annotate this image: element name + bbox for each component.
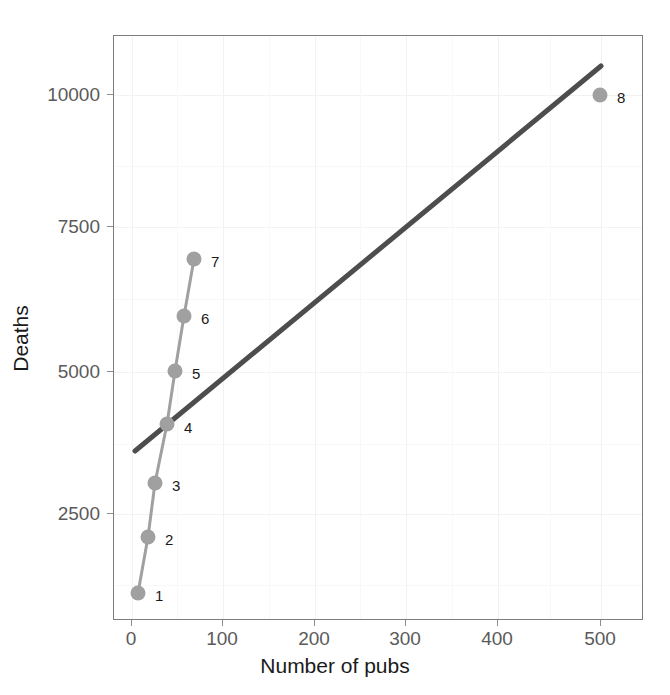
y-tick-label-5000: 5000	[58, 362, 100, 381]
x-tick-label-400: 400	[481, 629, 513, 648]
point-label-6: 6	[201, 311, 209, 326]
x-axis-title: Number of pubs	[0, 655, 670, 676]
y-tick-label-10000: 10000	[47, 85, 100, 104]
data-point-8[interactable]	[593, 88, 608, 103]
x-tick-mark-100	[222, 620, 223, 626]
data-point-5[interactable]	[168, 364, 183, 379]
x-tick-mark-200	[314, 620, 315, 626]
y-tick-mark-2500	[107, 513, 113, 514]
data-point-3[interactable]	[148, 476, 163, 491]
y-tick-mark-7500	[107, 226, 113, 227]
point-label-3: 3	[172, 478, 180, 493]
x-tick-mark-300	[405, 620, 406, 626]
data-point-6[interactable]	[177, 309, 192, 324]
data-point-2[interactable]	[141, 530, 156, 545]
regression-line	[135, 66, 601, 451]
point-label-5: 5	[192, 366, 200, 381]
data-point-7[interactable]	[187, 252, 202, 267]
point-label-4: 4	[184, 420, 192, 435]
point-label-7: 7	[211, 254, 219, 269]
point-label-2: 2	[165, 532, 173, 547]
x-tick-mark-400	[497, 620, 498, 626]
y-axis-title: Deaths	[10, 289, 31, 389]
x-tick-label-200: 200	[298, 629, 330, 648]
x-tick-label-0: 0	[126, 629, 137, 648]
point-label-1: 1	[155, 588, 163, 603]
x-tick-label-300: 300	[389, 629, 421, 648]
y-tick-mark-5000	[107, 371, 113, 372]
data-layer	[0, 0, 670, 695]
data-point-1[interactable]	[131, 586, 146, 601]
y-tick-label-7500: 7500	[58, 217, 100, 236]
x-tick-label-100: 100	[206, 629, 238, 648]
y-tick-mark-10000	[107, 94, 113, 95]
point-label-8: 8	[617, 90, 625, 105]
y-tick-label-2500: 2500	[58, 504, 100, 523]
data-point-4[interactable]	[160, 417, 175, 432]
x-tick-label-500: 500	[584, 629, 616, 648]
x-tick-mark-0	[131, 620, 132, 626]
scatter-plot-figure: 1 2 3 4 5 6 7 8 10000 7500 5000 2500 Dea…	[0, 0, 670, 695]
x-tick-mark-500	[600, 620, 601, 626]
